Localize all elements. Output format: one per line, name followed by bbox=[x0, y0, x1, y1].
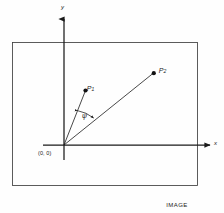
point-p2-label: P2 bbox=[151, 59, 166, 82]
diagram-canvas bbox=[0, 0, 224, 213]
image-plane-diagram: y x (0, 0) P1 P2 ψ IMAGE PLANE bbox=[0, 0, 224, 213]
angle-symbol-label: ψ bbox=[82, 112, 87, 120]
point-p2-subscript: 2 bbox=[163, 68, 166, 74]
point-p1-subscript: 1 bbox=[91, 86, 94, 92]
image-plane-caption: IMAGE PLANE bbox=[166, 189, 188, 213]
y-axis-label: y bbox=[61, 4, 64, 11]
point-p1-label: P1 bbox=[79, 77, 94, 100]
image-plane-frame bbox=[13, 43, 198, 186]
origin-label: (0, 0) bbox=[38, 150, 51, 156]
x-axis-label: x bbox=[214, 140, 217, 147]
ray-to-p2 bbox=[64, 73, 154, 145]
image-plane-caption-line1: IMAGE bbox=[166, 202, 188, 209]
